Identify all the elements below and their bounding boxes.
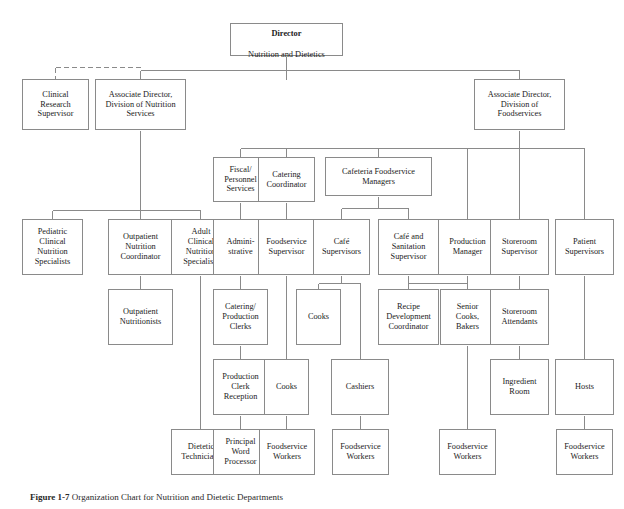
node-cooks-cafe[interactable]: Cooks [296,289,341,345]
node-foodservice-workers-1[interactable]: Foodservice Workers [259,429,315,475]
node-senior-cooks-bakers[interactable]: Senior Cooks, Bakers [440,289,495,345]
node-foodservice-workers-3[interactable]: Foodservice Workers [439,429,496,475]
node-ingredient-room[interactable]: Ingredient Room [490,359,549,415]
node-director-title: Director [248,29,325,40]
node-production-clerk-reception[interactable]: Production Clerk Reception [213,359,268,415]
node-patient-supervisors[interactable]: Patient Supervisors [555,219,614,275]
figure-caption-text: Organization Chart for Nutrition and Die… [72,492,283,502]
node-storeroom-supervisor[interactable]: Storeroom Supervisor [490,219,549,275]
node-outpatient-nutritionists[interactable]: Outpatient Nutritionists [108,289,173,345]
figure-caption: Figure 1-7 Organization Chart for Nutrit… [30,492,283,502]
node-production-manager[interactable]: Production Manager [438,219,497,275]
node-associate-director-nutrition[interactable]: Associate Director, Division of Nutritio… [95,79,186,130]
node-cafe-and-sanitation-supervisor[interactable]: Café and Sanitation Supervisor [378,219,439,275]
node-storeroom-attendants[interactable]: Storeroom Attendants [490,289,549,345]
node-cafe-supervisors[interactable]: Café Supervisors [313,219,370,275]
node-foodservice-supervisor[interactable]: Foodservice Supervisor [258,219,315,275]
node-pediatric-clinical-nutrition-specialists[interactable]: Pediatric Clinical Nutrition Specialists [22,219,83,275]
org-chart: Director Nutrition and Dietetics Clinica… [0,0,624,509]
node-director[interactable]: Director Nutrition and Dietetics [230,23,343,56]
node-director-subtitle: Nutrition and Dietetics [248,50,325,59]
node-associate-director-foodservices[interactable]: Associate Director, Division of Foodserv… [474,79,565,130]
node-cooks-foodservice[interactable]: Cooks [264,359,309,415]
node-cafeteria-foodservice-managers[interactable]: Cafeteria Foodservice Managers [325,157,432,196]
node-foodservice-workers-2[interactable]: Foodservice Workers [332,429,389,475]
node-foodservice-workers-4[interactable]: Foodservice Workers [556,429,613,475]
node-cashiers[interactable]: Cashiers [331,359,389,415]
node-recipe-development-coordinator[interactable]: Recipe Development Coordinator [378,289,439,345]
node-catering-production-clerks[interactable]: Catering/ Production Clerks [213,289,268,345]
node-clinical-research-supervisor[interactable]: Clinical Research Supervisor [22,79,89,130]
node-catering-coordinator[interactable]: Catering Coordinator [258,157,315,202]
figure-caption-number: Figure 1-7 [30,492,70,502]
node-hosts[interactable]: Hosts [555,359,614,415]
node-outpatient-nutrition-coordinator[interactable]: Outpatient Nutrition Coordinator [108,219,173,275]
